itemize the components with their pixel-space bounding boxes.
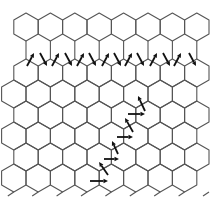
hex-cell xyxy=(148,164,172,192)
hex-cell xyxy=(172,122,196,150)
spin-arrow xyxy=(189,53,194,62)
spin-arrow xyxy=(174,57,179,66)
bond-stub xyxy=(57,192,63,196)
hex-cell xyxy=(136,143,160,171)
hex-cell xyxy=(26,80,50,108)
hex-cell xyxy=(38,59,62,87)
bottom-bond-stubs xyxy=(8,192,209,196)
hex-cell xyxy=(99,80,123,108)
hex-cell xyxy=(185,143,209,171)
gap-bond-stubs xyxy=(26,41,197,59)
arrowhead-icon xyxy=(141,112,146,116)
bond-stub xyxy=(32,192,38,196)
hex-cell xyxy=(50,164,74,192)
spin-arrow xyxy=(89,53,94,62)
bond-stub xyxy=(8,192,14,196)
hex-cell xyxy=(185,59,209,87)
spin-arrow xyxy=(52,57,57,66)
hex-cell xyxy=(87,59,111,87)
hexagonal-lattice-diagram xyxy=(0,0,221,205)
spin-arrow xyxy=(114,53,119,62)
hex-cell xyxy=(185,101,209,129)
bond-stub xyxy=(81,192,87,196)
hex-cell xyxy=(124,164,148,192)
hex-cell xyxy=(111,101,135,129)
hex-cell xyxy=(136,13,160,41)
hex-cell xyxy=(75,122,99,150)
hex-cell xyxy=(2,80,26,108)
hex-cell xyxy=(148,122,172,150)
hex-cell xyxy=(172,80,196,108)
spin-arrow xyxy=(150,57,155,66)
hex-cell xyxy=(75,164,99,192)
spin-arrow xyxy=(137,53,142,62)
hex-cell xyxy=(63,13,87,41)
arrowhead-icon xyxy=(104,179,109,183)
spin-arrow xyxy=(77,57,82,66)
hex-cell xyxy=(160,101,184,129)
hex-cell xyxy=(63,143,87,171)
hex-cell xyxy=(75,80,99,108)
hex-cell xyxy=(111,59,135,87)
hex-cell xyxy=(14,143,38,171)
hex-cell xyxy=(50,122,74,150)
hex-cell xyxy=(136,101,160,129)
hex-cell xyxy=(87,13,111,41)
hex-cell xyxy=(111,13,135,41)
hex-cell xyxy=(14,13,38,41)
hex-cell xyxy=(50,80,74,108)
hex-cell xyxy=(148,80,172,108)
hex-cell xyxy=(26,164,50,192)
bond-stub xyxy=(130,192,136,196)
hex-cell xyxy=(26,122,50,150)
hex-cell xyxy=(63,101,87,129)
hex-cell xyxy=(2,164,26,192)
hex-cell xyxy=(99,122,123,150)
arrowhead-icon xyxy=(129,135,134,139)
spin-arrow xyxy=(163,53,168,62)
hex-cell xyxy=(160,143,184,171)
hex-cell xyxy=(14,101,38,129)
hex-cell xyxy=(124,122,148,150)
hex-cell xyxy=(160,13,184,41)
hex-cell xyxy=(160,59,184,87)
hex-cell xyxy=(14,59,38,87)
spin-arrow xyxy=(40,53,45,62)
hex-cell xyxy=(87,101,111,129)
hex-cell xyxy=(185,13,209,41)
hex-cell xyxy=(87,143,111,171)
hex-cell xyxy=(136,59,160,87)
arrowhead-icon xyxy=(115,157,120,161)
bond-stub xyxy=(179,192,185,196)
hex-cell xyxy=(63,59,87,87)
spin-arrow xyxy=(65,53,70,62)
top-hex-row xyxy=(14,13,209,41)
hex-cell xyxy=(2,122,26,150)
hex-cell xyxy=(172,164,196,192)
hex-cell xyxy=(38,13,62,41)
bond-stub xyxy=(154,192,160,196)
bond-stub xyxy=(203,192,209,196)
bond-stub xyxy=(105,192,111,196)
hex-cell xyxy=(124,80,148,108)
hex-cell xyxy=(38,101,62,129)
spin-arrow xyxy=(125,57,130,66)
hex-cell xyxy=(38,143,62,171)
